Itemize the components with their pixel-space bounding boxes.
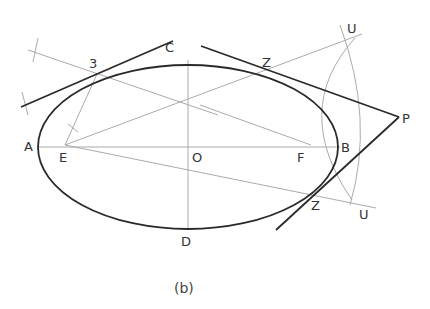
figure-caption: (b) [174,280,194,296]
arc-f [322,38,355,200]
tangent-at-3 [21,41,173,107]
label-c: C [165,40,174,55]
label-z-top: Z [262,55,271,70]
tick-mark [33,38,38,62]
label-p: P [402,111,410,126]
label-u-bottom: U [359,207,369,222]
ellipse-tangent-construction: C 3 Z U P A E O F B Z U D (b) [0,0,430,309]
label-d: D [181,234,191,249]
label-o: O [192,150,202,165]
tangent-p-z-bottom [276,117,399,230]
label-f: F [297,150,304,165]
line-f [200,105,311,145]
label-e: E [59,150,67,165]
label-z-bottom: Z [311,198,320,213]
label-a: A [24,139,33,154]
line-e-u-bottom [65,145,376,208]
construction-line-3 [28,50,218,115]
label-3: 3 [89,56,97,71]
tick-mark [68,124,78,132]
label-u-top: U [347,21,357,36]
label-b: B [341,140,350,155]
arc-p [340,25,360,205]
tangent-p-z-top [201,46,399,117]
